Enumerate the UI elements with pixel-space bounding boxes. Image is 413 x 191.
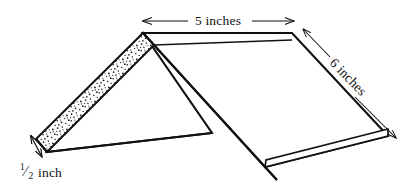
figure-canvas: 5 inches 6 inches 1 ⁄ 2 inch [0,0,413,191]
half-inch-denominator: 2 [29,171,34,181]
tent-diagram-svg: 5 inches 6 inches 1 ⁄ 2 inch [0,0,413,191]
half-inch-unit-label: inch [38,165,62,180]
dimension-5-inches-label: 5 inches [195,13,241,28]
front-fold-bottom-corner [265,167,277,180]
dimension-5-inches: 5 inches [143,13,294,28]
